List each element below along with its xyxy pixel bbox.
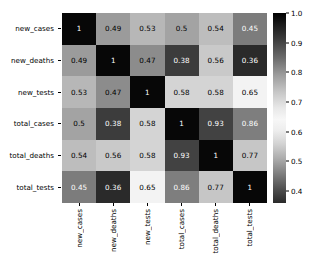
heatmap-cell: 0.58 — [130, 140, 164, 172]
colorbar-tick-label: 0.4 — [291, 187, 302, 196]
colorbar-tick-label: 0.7 — [291, 98, 302, 107]
x-axis-tick-labels: new_casesnew_deathsnew_teststotal_casest… — [62, 209, 267, 265]
heatmap-cell-value: 0.53 — [71, 89, 87, 96]
x-axis-ticks — [62, 203, 267, 207]
heatmap-cell-value: 0.38 — [105, 120, 121, 127]
x-axis-label-new-deaths: new_deaths — [109, 209, 118, 252]
heatmap-grid: 10.490.530.50.540.450.4910.470.380.560.3… — [62, 13, 267, 203]
y-axis-label-total-tests: total_tests — [0, 171, 56, 203]
heatmap-cell-value: 0.93 — [173, 152, 189, 159]
y-axis-tick-labels: new_casesnew_deathsnew_teststotal_casest… — [0, 13, 56, 203]
heatmap-cell: 0.86 — [165, 171, 199, 203]
x-axis-label-total-deaths: total_deaths — [211, 209, 220, 254]
heatmap-cell: 0.56 — [96, 140, 130, 172]
heatmap-cell: 0.77 — [233, 140, 267, 172]
x-axis-label-wrap: new_deaths — [96, 209, 130, 265]
x-axis-tick-mark — [199, 203, 233, 207]
heatmap-cell: 0.36 — [96, 171, 130, 203]
heatmap-cell-value: 0.56 — [105, 152, 121, 159]
colorbar-tick-mark — [286, 102, 289, 103]
heatmap-cell: 0.58 — [130, 108, 164, 140]
heatmap-cell-value: 0.58 — [173, 89, 189, 96]
heatmap-cell-value: 0.93 — [208, 120, 224, 127]
heatmap-cell: 0.93 — [199, 108, 233, 140]
colorbar-tick-0-9: 0.9 — [286, 38, 302, 47]
y-axis-label-new-deaths: new_deaths — [0, 45, 56, 77]
heatmap-cell-value: 0.38 — [173, 57, 189, 64]
colorbar-tick-0-6: 0.6 — [286, 127, 302, 136]
colorbar-tick-mark — [286, 72, 289, 73]
colorbar-tick-labels: 1.00.90.80.70.60.50.4 — [286, 13, 311, 203]
heatmap-cell-value: 0.49 — [105, 25, 121, 32]
heatmap-cell: 1 — [233, 171, 267, 203]
colorbar-gradient — [273, 13, 286, 203]
heatmap-cell-value: 0.47 — [105, 89, 121, 96]
heatmap-cell-value: 0.5 — [73, 120, 85, 127]
heatmap-cell: 0.45 — [233, 13, 267, 45]
heatmap-cell: 1 — [199, 140, 233, 172]
heatmap-cell-value: 0.54 — [208, 25, 224, 32]
colorbar-tick-0-4: 0.4 — [286, 187, 302, 196]
x-axis-label-total-cases: total_cases — [177, 209, 186, 249]
y-axis-label-total-deaths: total_deaths — [0, 140, 56, 172]
heatmap-cell-value: 1 — [111, 57, 116, 64]
heatmap-cell-value: 0.54 — [71, 152, 87, 159]
colorbar-tick-0-7: 0.7 — [286, 98, 302, 107]
heatmap-cell: 0.49 — [62, 45, 96, 77]
heatmap-cell: 0.5 — [165, 13, 199, 45]
x-axis-label-wrap: new_cases — [62, 209, 96, 265]
heatmap-cell-value: 0.45 — [242, 25, 258, 32]
x-axis-label-wrap: total_deaths — [199, 209, 233, 265]
heatmap-cell: 0.56 — [199, 45, 233, 77]
heatmap-cell-value: 1 — [213, 152, 218, 159]
heatmap-cell: 0.53 — [62, 76, 96, 108]
heatmap-cell: 0.36 — [233, 45, 267, 77]
heatmap-cell: 0.65 — [130, 171, 164, 203]
x-axis-tick-mark — [165, 203, 199, 207]
x-axis-tick-mark — [96, 203, 130, 207]
heatmap-cell-value: 0.65 — [139, 184, 155, 191]
heatmap-cell: 0.77 — [199, 171, 233, 203]
colorbar-tick-label: 0.9 — [291, 38, 302, 47]
heatmap-cell: 0.58 — [199, 76, 233, 108]
heatmap-cell: 0.93 — [165, 140, 199, 172]
x-axis-label-new-tests: new_tests — [143, 209, 152, 245]
heatmap-cell-value: 1 — [77, 25, 82, 32]
heatmap-cell: 0.38 — [165, 45, 199, 77]
correlation-heatmap-figure: new_casesnew_deathsnew_teststotal_casest… — [0, 0, 311, 268]
heatmap-cell: 1 — [62, 13, 96, 45]
colorbar — [273, 13, 286, 203]
heatmap-cell-value: 0.65 — [242, 89, 258, 96]
heatmap-cell-value: 0.36 — [242, 57, 258, 64]
heatmap-cell-value: 0.86 — [242, 120, 258, 127]
heatmap-cell-value: 0.49 — [71, 57, 87, 64]
x-axis-tick-mark — [62, 203, 96, 207]
heatmap-cell: 0.5 — [62, 108, 96, 140]
colorbar-tick-mark — [286, 42, 289, 43]
colorbar-tick-mark — [286, 13, 289, 14]
heatmap-cell-value: 0.77 — [242, 152, 258, 159]
heatmap-cell-value: 0.77 — [208, 184, 224, 191]
heatmap-cell: 1 — [96, 45, 130, 77]
heatmap-cell-value: 0.58 — [139, 152, 155, 159]
heatmap-cell-value: 0.58 — [139, 120, 155, 127]
heatmap-cell-value: 1 — [248, 184, 253, 191]
heatmap-cell: 0.38 — [96, 108, 130, 140]
heatmap-cell: 1 — [165, 108, 199, 140]
heatmap-cell: 0.65 — [233, 76, 267, 108]
heatmap-cell: 0.58 — [165, 76, 199, 108]
x-axis-tick-mark — [130, 203, 164, 207]
colorbar-tick-mark — [286, 131, 289, 132]
y-axis-label-total-cases: total_cases — [0, 108, 56, 140]
x-axis-label-wrap: total_cases — [165, 209, 199, 265]
x-axis-label-wrap: new_tests — [130, 209, 164, 265]
colorbar-tick-label: 1.0 — [291, 9, 302, 18]
heatmap-cell-value: 1 — [179, 120, 184, 127]
x-axis-label-total-tests: total_tests — [245, 209, 254, 247]
y-axis-label-new-cases: new_cases — [0, 13, 56, 45]
x-axis-tick-mark — [233, 203, 267, 207]
heatmap-cell-value: 0.5 — [176, 25, 188, 32]
heatmap-cell: 0.47 — [96, 76, 130, 108]
heatmap-cell: 0.54 — [199, 13, 233, 45]
heatmap-cell: 0.53 — [130, 13, 164, 45]
